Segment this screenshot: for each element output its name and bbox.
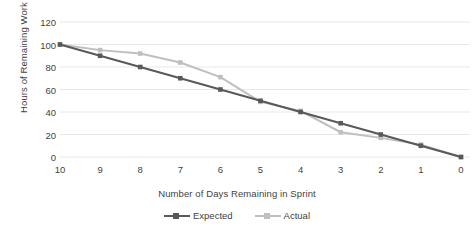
x-tick-label: 2	[366, 164, 396, 175]
burndown-chart: Hours of Remaining Work 020406080100120 …	[0, 0, 474, 238]
data-point	[98, 48, 103, 53]
legend-label: Actual	[284, 210, 310, 221]
legend-label: Expected	[193, 210, 233, 221]
data-point	[218, 87, 223, 92]
data-point	[58, 42, 63, 47]
x-tick-label: 5	[246, 164, 276, 175]
x-tick-label: 3	[326, 164, 356, 175]
legend-swatch-icon	[164, 211, 190, 220]
x-tick-label: 1	[406, 164, 436, 175]
x-tick-label: 9	[85, 164, 115, 175]
x-tick-label: 6	[205, 164, 235, 175]
x-tick-label: 0	[446, 164, 474, 175]
data-point	[419, 143, 424, 148]
chart-legend: ExpectedActual	[0, 210, 474, 221]
data-point	[298, 110, 303, 115]
legend-swatch-icon	[255, 211, 281, 220]
data-point	[98, 53, 103, 58]
x-axis-title: Number of Days Remaining in Sprint	[0, 188, 474, 199]
data-point	[338, 130, 343, 135]
x-tick-label: 10	[45, 164, 75, 175]
data-point	[379, 132, 384, 137]
legend-item-expected[interactable]: Expected	[164, 210, 233, 221]
data-point	[218, 75, 223, 80]
data-point	[459, 155, 464, 160]
data-point	[178, 60, 183, 65]
data-point	[138, 65, 143, 70]
x-axis-tick-labels: 109876543210	[0, 164, 474, 178]
x-tick-label: 4	[286, 164, 316, 175]
data-point	[138, 51, 143, 56]
x-tick-label: 7	[165, 164, 195, 175]
data-point	[178, 76, 183, 81]
data-point	[258, 98, 263, 103]
legend-item-actual[interactable]: Actual	[255, 210, 310, 221]
x-tick-label: 8	[125, 164, 155, 175]
plot-area	[0, 0, 474, 238]
data-point	[338, 121, 343, 126]
